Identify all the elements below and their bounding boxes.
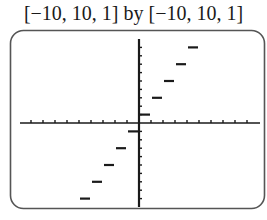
calculator-screen <box>0 0 267 220</box>
screen-frame <box>11 31 265 209</box>
